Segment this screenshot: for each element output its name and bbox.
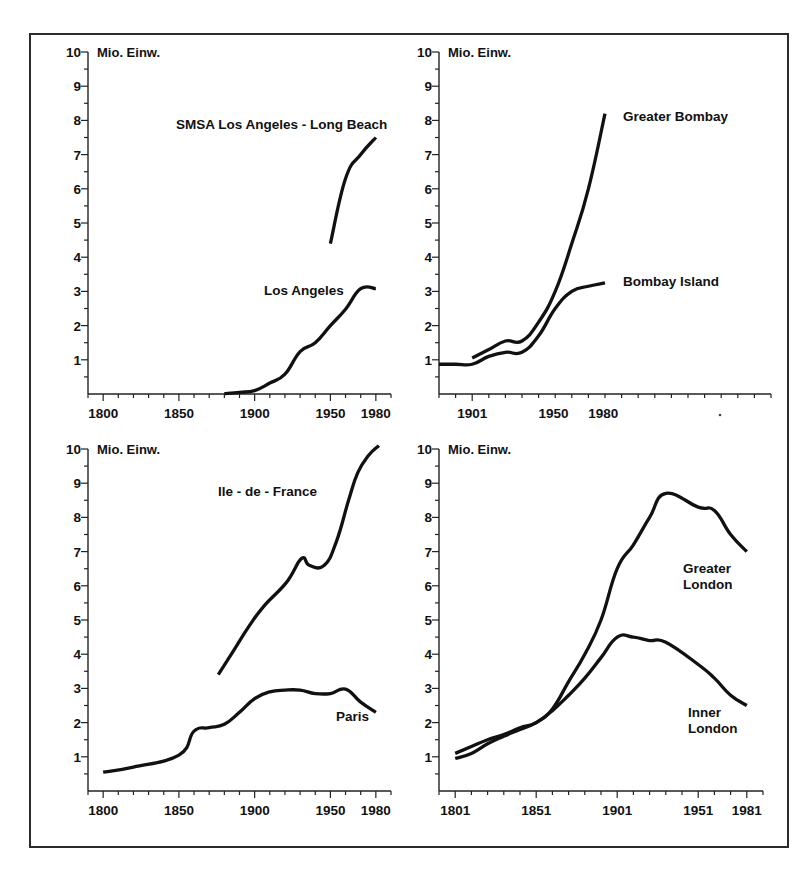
la-ytick-label: 1 — [73, 353, 81, 368]
chart-panel-los-angeles: 12345678910 18001850190019501980 Mio. Ei… — [31, 35, 411, 425]
lon-ytick-label: 6 — [424, 579, 432, 594]
par-y-tick-labels: 12345678910 — [66, 442, 82, 765]
par-ytick-label: 9 — [73, 476, 81, 491]
par-ytick-label: 7 — [73, 545, 81, 560]
lon-label-greater-london-line2: London — [683, 577, 732, 592]
chart-panel-bombay: 12345678910 190119501980 Mio. Einw. Grea… — [411, 35, 789, 425]
la-xtick-label: 1850 — [164, 406, 194, 421]
lon-label-inner-london-line1: Inner — [688, 705, 722, 720]
bom-y-tick-labels: 12345678910 — [417, 45, 433, 368]
los-angeles-svg: 12345678910 18001850190019501980 Mio. Ei… — [31, 35, 411, 425]
la-y-tick-labels: 12345678910 — [66, 45, 82, 368]
par-ytick-label: 8 — [73, 510, 81, 525]
par-ytick-label: 2 — [73, 716, 81, 731]
la-xtick-label: 1950 — [315, 406, 345, 421]
bom-label-greater-bombay: Greater Bombay — [623, 109, 729, 124]
bom-series-greater-bombay-line — [472, 114, 605, 359]
lon-label-inner-london-line2: London — [688, 721, 737, 736]
bom-ytick-label: 10 — [417, 45, 432, 60]
par-ytick-label: 1 — [73, 750, 81, 765]
lon-ytick-label: 8 — [424, 510, 432, 525]
par-xtick-label: 1850 — [164, 803, 194, 818]
la-xtick-label: 1980 — [361, 406, 391, 421]
lon-xtick-label: 1851 — [521, 803, 552, 818]
la-label-smsa: SMSA Los Angeles - Long Beach — [176, 117, 387, 132]
la-ytick-label: 6 — [73, 182, 81, 197]
par-x-tick-labels: 18001850190019501980 — [88, 803, 391, 818]
par-label-paris: Paris — [336, 709, 369, 724]
la-ytick-label: 10 — [66, 45, 81, 60]
bom-ytick-label: 4 — [424, 250, 432, 265]
bom-ytick-label: 7 — [424, 148, 432, 163]
bom-xtick-label: 1901 — [457, 406, 488, 421]
bom-ytick-label: 6 — [424, 182, 432, 197]
lon-ytick-label: 10 — [417, 442, 432, 457]
lon-xtick-label: 1901 — [602, 803, 633, 818]
lon-ytick-label: 4 — [424, 647, 432, 662]
par-ytick-label: 6 — [73, 579, 81, 594]
par-axes — [88, 449, 391, 791]
bom-ytick-label: 2 — [424, 319, 432, 334]
par-xtick-label: 1980 — [361, 803, 391, 818]
la-ytick-label: 5 — [73, 216, 81, 231]
la-ytick-label: 7 — [73, 148, 81, 163]
bom-ytick-label: 5 — [424, 216, 432, 231]
la-label-losangeles: Los Angeles — [264, 283, 344, 298]
lon-xtick-label: 1801 — [440, 803, 471, 818]
lon-y-tick-labels: 12345678910 — [417, 442, 433, 765]
lon-ytick-label: 7 — [424, 545, 432, 560]
la-ytick-label: 8 — [73, 113, 81, 128]
bom-xtick-label: 1980 — [588, 406, 618, 421]
la-xtick-label: 1800 — [88, 406, 118, 421]
bom-ytick-label: 9 — [424, 79, 432, 94]
bom-ytick-label: 3 — [424, 284, 432, 299]
lon-xtick-label: 1951 — [683, 803, 714, 818]
bombay-svg: 12345678910 190119501980 Mio. Einw. Grea… — [411, 35, 789, 425]
par-series-ile-de-france-line — [218, 446, 379, 675]
lon-ytick-label: 1 — [424, 750, 432, 765]
la-series-losangeles-line — [224, 287, 376, 394]
lon-axis-unit-label: Mio. Einw. — [448, 442, 511, 457]
bom-ytick-label: 8 — [424, 113, 432, 128]
la-axes — [88, 52, 391, 394]
lon-ytick-label: 3 — [424, 681, 432, 696]
par-ytick-label: 10 — [66, 442, 81, 457]
lon-ytick-label: 9 — [424, 476, 432, 491]
par-ytick-label: 3 — [73, 681, 81, 696]
lon-x-ticks — [439, 791, 763, 798]
lon-xtick-label: 1981 — [732, 803, 763, 818]
la-axis-unit-label: Mio. Einw. — [97, 45, 160, 60]
chart-panel-paris: 12345678910 18001850190019501980 Mio. Ei… — [31, 425, 411, 845]
bom-axes — [439, 52, 771, 394]
lon-y-ticks — [432, 449, 439, 774]
par-y-ticks — [81, 449, 88, 774]
lon-ytick-label: 5 — [424, 613, 432, 628]
bom-xtick-label: 1950 — [539, 406, 569, 421]
par-xtick-label: 1950 — [315, 803, 345, 818]
par-label-ile-de-france: Ile - de - France — [218, 484, 318, 499]
chart-panel-london: 12345678910 18011851190119511981 Mio. Ei… — [411, 425, 789, 845]
par-ytick-label: 4 — [73, 647, 81, 662]
bom-ytick-label: 1 — [424, 353, 432, 368]
par-xtick-label: 1900 — [240, 803, 270, 818]
par-x-ticks — [88, 791, 391, 798]
par-axis-unit-label: Mio. Einw. — [97, 442, 160, 457]
bom-axis-unit-label: Mio. Einw. — [448, 45, 511, 60]
la-y-ticks — [81, 52, 88, 377]
la-x-ticks — [88, 394, 391, 401]
stray-mark-dot — [719, 414, 722, 417]
bom-y-ticks — [432, 52, 439, 377]
lon-x-tick-labels: 18011851190119511981 — [440, 803, 762, 818]
bom-label-bombay-island: Bombay Island — [623, 274, 719, 289]
la-ytick-label: 9 — [73, 79, 81, 94]
par-xtick-label: 1800 — [88, 803, 118, 818]
paris-svg: 12345678910 18001850190019501980 Mio. Ei… — [31, 425, 411, 845]
par-ytick-label: 5 — [73, 613, 81, 628]
london-svg: 12345678910 18011851190119511981 Mio. Ei… — [411, 425, 789, 845]
lon-label-greater-london-line1: Greater — [683, 561, 732, 576]
la-x-tick-labels: 18001850190019501980 — [88, 406, 391, 421]
la-ytick-label: 3 — [73, 284, 81, 299]
la-xtick-label: 1900 — [240, 406, 270, 421]
lon-series-inner-london-line — [455, 635, 747, 759]
la-ytick-label: 2 — [73, 319, 81, 334]
